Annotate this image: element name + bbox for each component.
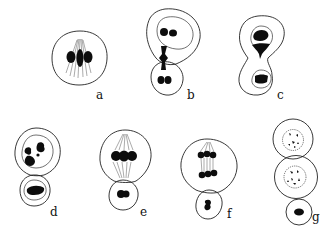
panel-label-f: f bbox=[227, 208, 231, 220]
panel-label-c: c bbox=[277, 89, 284, 101]
chromosomes-f bbox=[198, 151, 218, 210]
cell-a bbox=[52, 31, 107, 85]
panel-label-b: b bbox=[187, 89, 195, 101]
cell-b bbox=[147, 9, 200, 95]
cell-d bbox=[15, 128, 60, 206]
chromosomes-d bbox=[25, 142, 45, 195]
chromosomes-b bbox=[158, 28, 178, 84]
cell-c bbox=[239, 16, 284, 95]
cell-e bbox=[100, 130, 151, 210]
cell-division-diagram bbox=[0, 0, 331, 230]
chromosomes-e bbox=[111, 151, 137, 199]
panel-label-g: g bbox=[312, 211, 320, 223]
chromosomes-c bbox=[252, 30, 270, 84]
panel-label-d: d bbox=[50, 206, 58, 218]
panel-label-e: e bbox=[140, 206, 147, 218]
panel-label-a: a bbox=[96, 89, 103, 101]
cell-g bbox=[273, 119, 318, 225]
chromosomes-a bbox=[67, 49, 93, 67]
